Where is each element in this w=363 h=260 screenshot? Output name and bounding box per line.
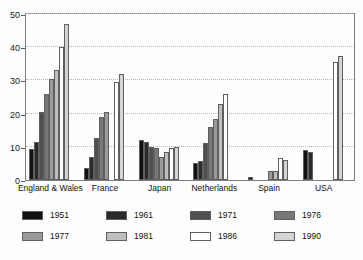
- plot-area: [26, 14, 354, 180]
- legend-swatch: [22, 211, 43, 220]
- bar: [308, 152, 313, 180]
- bar-group: [139, 14, 179, 180]
- legend-swatch: [22, 232, 43, 241]
- y-tick-label: 50: [10, 11, 20, 20]
- y-tick-label: 10: [10, 144, 20, 153]
- legend-label: 1971: [218, 211, 237, 220]
- x-tick-label: Spain: [258, 183, 280, 193]
- legend-item[interactable]: 1977: [22, 231, 69, 242]
- bar: [338, 56, 343, 181]
- legend-label: 1976: [302, 211, 321, 220]
- bar-group: [248, 14, 288, 180]
- legend-swatch: [190, 232, 211, 241]
- bar: [174, 147, 179, 180]
- legend-label: 1961: [134, 211, 153, 220]
- bar: [119, 74, 124, 180]
- legend-item[interactable]: 1971: [190, 210, 237, 221]
- x-tick-label: USA: [315, 183, 332, 193]
- legend-swatch: [106, 211, 127, 220]
- chart-legend: 19511961197119761977198119861990: [22, 210, 358, 254]
- bar: [248, 177, 253, 180]
- legend-item[interactable]: 1990: [274, 231, 321, 242]
- x-axis-labels: England & WalesFranceJapanNetherlandsSpa…: [25, 183, 355, 197]
- legend-label: 1986: [218, 232, 237, 241]
- x-tick-label: Japan: [148, 183, 171, 193]
- legend-item[interactable]: 1986: [190, 231, 237, 242]
- legend-swatch: [274, 211, 295, 220]
- legend-item[interactable]: 1951: [22, 210, 69, 221]
- legend-label: 1951: [50, 211, 69, 220]
- y-tick-label: 40: [10, 44, 20, 53]
- bar-group: [29, 14, 69, 180]
- y-tick-mark: [21, 181, 25, 182]
- y-tick-label: 30: [10, 77, 20, 86]
- legend-label: 1981: [134, 232, 153, 241]
- bar-group: [303, 14, 343, 180]
- x-tick-label: England & Wales: [18, 183, 83, 193]
- legend-swatch: [106, 232, 127, 241]
- bar: [64, 24, 69, 180]
- bar: [104, 112, 109, 180]
- legend-item[interactable]: 1976: [274, 210, 321, 221]
- legend-swatch: [190, 211, 211, 220]
- legend-item[interactable]: 1981: [106, 231, 153, 242]
- bar-group: [84, 14, 124, 180]
- legend-item[interactable]: 1961: [106, 210, 153, 221]
- bar: [223, 94, 228, 180]
- legend-swatch: [274, 232, 295, 241]
- bar-group: [193, 14, 233, 180]
- plot-frame: [25, 13, 355, 181]
- bar: [283, 160, 288, 180]
- bar-chart-figure: 01020304050 England & WalesFranceJapanNe…: [0, 0, 363, 260]
- y-axis: 01020304050: [0, 6, 25, 188]
- legend-label: 1990: [302, 232, 321, 241]
- x-tick-label: France: [92, 183, 118, 193]
- y-tick-label: 20: [10, 111, 20, 120]
- x-tick-label: Netherlands: [191, 183, 237, 193]
- legend-label: 1977: [50, 232, 69, 241]
